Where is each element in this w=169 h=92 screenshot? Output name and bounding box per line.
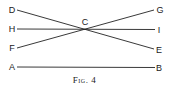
label-C: C bbox=[82, 18, 89, 27]
line-AB bbox=[17, 67, 155, 68]
label-B: B bbox=[156, 64, 162, 73]
label-A: A bbox=[9, 63, 15, 72]
label-E: E bbox=[156, 46, 162, 55]
figure-caption: Fig. 4 bbox=[0, 75, 169, 85]
label-D: D bbox=[9, 6, 16, 15]
label-I: I bbox=[158, 26, 161, 35]
label-F: F bbox=[9, 44, 15, 53]
label-G: G bbox=[156, 6, 163, 15]
label-H: H bbox=[9, 25, 16, 34]
geometry-figure: D G H I F E A B C Fig. 4 bbox=[0, 0, 169, 92]
line-HI bbox=[17, 29, 155, 30]
